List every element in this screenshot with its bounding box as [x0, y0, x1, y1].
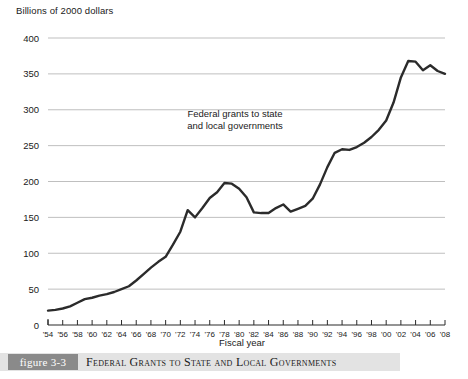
svg-text:'62: '62 — [102, 330, 113, 339]
x-axis — [48, 319, 445, 325]
svg-text:350: 350 — [23, 68, 39, 79]
svg-text:'00: '00 — [381, 330, 392, 339]
svg-text:'76: '76 — [205, 330, 216, 339]
svg-text:Federal grants to state: Federal grants to state — [187, 108, 282, 119]
svg-text:'86: '86 — [278, 330, 289, 339]
svg-text:'92: '92 — [322, 330, 333, 339]
svg-text:'72: '72 — [175, 330, 186, 339]
figure-caption-title: Federal Grants to State and Local Govern… — [86, 354, 337, 370]
svg-text:'88: '88 — [293, 330, 304, 339]
svg-text:'02: '02 — [396, 330, 407, 339]
svg-text:'54: '54 — [43, 330, 54, 339]
svg-text:0: 0 — [34, 320, 39, 331]
data-line-series — [48, 61, 445, 311]
svg-text:300: 300 — [23, 104, 39, 115]
svg-text:100: 100 — [23, 248, 39, 259]
svg-text:'96: '96 — [352, 330, 363, 339]
svg-text:'84: '84 — [263, 330, 274, 339]
svg-text:200: 200 — [23, 176, 39, 187]
svg-text:'90: '90 — [307, 330, 318, 339]
svg-text:'68: '68 — [146, 330, 157, 339]
svg-text:'08: '08 — [440, 330, 451, 339]
svg-text:and local governments: and local governments — [187, 120, 283, 131]
svg-text:'74: '74 — [190, 330, 201, 339]
x-axis-title: Fiscal year — [219, 337, 265, 348]
svg-text:400: 400 — [23, 33, 39, 44]
svg-text:250: 250 — [23, 140, 39, 151]
svg-text:'70: '70 — [160, 330, 171, 339]
svg-text:'56: '56 — [57, 330, 68, 339]
chart-annotation: Federal grants to stateand local governm… — [187, 108, 283, 131]
svg-text:50: 50 — [28, 284, 39, 295]
figure-number-label: figure 3-3 — [8, 354, 78, 370]
chart-page: Billions of 2000 dollars 050100150200250… — [0, 0, 468, 379]
svg-text:150: 150 — [23, 212, 39, 223]
svg-text:'58: '58 — [72, 330, 83, 339]
svg-text:'98: '98 — [366, 330, 377, 339]
svg-text:'06: '06 — [425, 330, 436, 339]
gridlines — [48, 38, 445, 289]
chart-plot-area: 050100150200250300350400 '54'56'58'60'62… — [0, 0, 468, 350]
svg-text:'94: '94 — [337, 330, 348, 339]
svg-text:'04: '04 — [410, 330, 421, 339]
y-tick-labels: 050100150200250300350400 — [23, 33, 39, 331]
svg-text:'64: '64 — [116, 330, 127, 339]
svg-text:'60: '60 — [87, 330, 98, 339]
svg-text:'66: '66 — [131, 330, 142, 339]
